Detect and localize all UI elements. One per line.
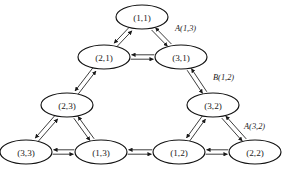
- node-label: (3,3): [17, 148, 35, 158]
- node-n31[interactable]: (3,1): [155, 45, 207, 69]
- edge-layer: [35, 27, 246, 154]
- node-label: (2,1): [95, 53, 113, 63]
- edge-n13-n23: [74, 117, 94, 141]
- node-label: (1,1): [133, 13, 151, 23]
- node-n33[interactable]: (3,3): [0, 140, 52, 164]
- node-label: (1,3): [92, 148, 110, 158]
- edge-n12-n22: [206, 150, 229, 154]
- edge-n33-n23: [35, 115, 58, 142]
- node-n22[interactable]: (2,2): [229, 140, 281, 164]
- diagram-canvas: (1,1)(2,1)(3,1)(2,3)(3,2)(3,3)(1,3)(1,2)…: [0, 0, 283, 175]
- edge-label-lbl-a32: A(3,2): [243, 122, 265, 131]
- node-n21[interactable]: (2,1): [78, 45, 130, 69]
- edge-arrow: [114, 27, 129, 43]
- edge-n21-n11: [114, 27, 132, 47]
- edge-n13-n12: [128, 150, 153, 154]
- edge-arrow: [222, 118, 243, 141]
- edge-arrow: [117, 31, 132, 47]
- edge-label-lbl-a13: A(1,3): [174, 24, 196, 33]
- node-label: (2,2): [246, 148, 264, 158]
- edge-label-lbl-b12: B(1,2): [213, 73, 234, 82]
- node-n32[interactable]: (3,2): [187, 93, 239, 117]
- node-n23[interactable]: (2,3): [41, 93, 93, 117]
- edge-n21-n31: [131, 55, 155, 59]
- edge-n23-n21: [75, 67, 96, 94]
- graph-svg: (1,1)(2,1)(3,1)(2,3)(3,2)(3,3)(1,3)(1,2)…: [0, 0, 283, 175]
- node-label: (3,1): [172, 53, 190, 63]
- node-label: (2,3): [58, 101, 76, 111]
- node-layer: (1,1)(2,1)(3,1)(2,3)(3,2)(3,3)(1,3)(1,2)…: [0, 5, 281, 164]
- edge-arrow: [38, 119, 58, 142]
- edge-arrow: [78, 71, 96, 94]
- node-label: (3,2): [204, 101, 222, 111]
- node-n11[interactable]: (1,1): [116, 5, 168, 29]
- edge-n22-n32: [222, 116, 247, 141]
- node-n12[interactable]: (1,2): [153, 140, 205, 164]
- node-n13[interactable]: (1,3): [75, 140, 127, 164]
- edge-n31-n11: [152, 28, 172, 47]
- node-label: (1,2): [170, 148, 188, 158]
- edge-n33-n13: [53, 150, 75, 154]
- edge-arrow: [35, 115, 55, 138]
- edge-n12-n32: [186, 116, 205, 142]
- edge-arrow: [75, 67, 93, 90]
- edge-n32-n31: [187, 69, 207, 94]
